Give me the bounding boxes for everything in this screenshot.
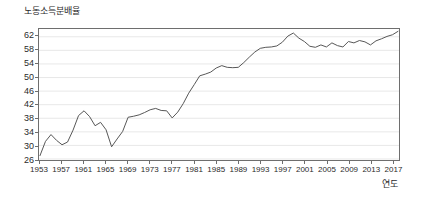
x-axis-tick-label: 1969	[119, 166, 137, 174]
y-axis-tick-mark	[35, 63, 38, 64]
y-axis-tick-mark	[35, 35, 38, 36]
y-axis-tick-mark	[35, 118, 38, 119]
x-axis-tick-label: 2005	[318, 166, 336, 174]
x-axis-tick-label: 1965	[97, 166, 115, 174]
plot-area	[38, 28, 400, 161]
x-axis-tick-label: 1993	[252, 166, 270, 174]
y-axis-tick-label: 50	[10, 73, 34, 82]
y-axis-tick-mark	[35, 49, 38, 50]
y-axis-tick-mark	[35, 160, 38, 161]
x-axis-tick-label: 1997	[274, 166, 292, 174]
y-axis-tick-label: 38	[10, 114, 34, 123]
y-axis-tick-mark	[35, 91, 38, 92]
gridlines	[39, 37, 399, 159]
x-axis-tick-label: 1973	[141, 166, 159, 174]
y-axis-tick-label: 34	[10, 128, 34, 137]
chart-container: 노동소득분배율 62585450464238343026 19531957196…	[0, 0, 431, 201]
x-axis-tick-label: 1961	[74, 166, 92, 174]
data-line-chart	[39, 29, 399, 160]
x-axis-tick-label: 1981	[185, 166, 203, 174]
y-axis-tick-label: 54	[10, 59, 34, 68]
y-axis-tick-mark	[35, 104, 38, 105]
x-axis-tick-label: 2013	[362, 166, 380, 174]
x-axis-tick-label: 1977	[163, 166, 181, 174]
y-axis-tick-mark	[35, 77, 38, 78]
x-axis-tick-label: 2001	[296, 166, 314, 174]
y-axis-tick-mark	[35, 132, 38, 133]
y-axis-tick-label: 62	[10, 31, 34, 40]
x-axis-tick-label: 2017	[385, 166, 403, 174]
x-axis-tick-labels: 1953195719611965196919731977198119851989…	[0, 164, 431, 178]
y-axis-tick-label: 30	[10, 142, 34, 151]
y-axis-tick-label: 58	[10, 45, 34, 54]
data-line-series	[40, 31, 398, 155]
y-axis-tick-label: 42	[10, 100, 34, 109]
x-axis-tick-label: 1957	[52, 166, 70, 174]
y-axis-tick-label: 46	[10, 87, 34, 96]
x-axis-title: 연도	[382, 177, 398, 190]
x-axis-tick-label: 1985	[207, 166, 225, 174]
x-axis-tick-label: 1989	[229, 166, 247, 174]
y-axis-tick-mark	[35, 146, 38, 147]
x-axis-tick-label: 2009	[340, 166, 358, 174]
x-axis-tick-label: 1953	[30, 166, 48, 174]
